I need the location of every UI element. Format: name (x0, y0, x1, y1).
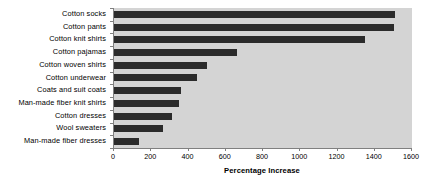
bar-row (114, 97, 412, 110)
bar (114, 125, 163, 132)
x-axis-title: Percentage Increase (113, 166, 411, 175)
x-axis-tick-label: 1600 (403, 152, 419, 161)
chart-screenshot: Cotton socksCotton pantsCotton knit shir… (0, 0, 448, 192)
x-axis-tick (337, 148, 338, 151)
y-axis-category-label: Cotton woven shirts (0, 59, 110, 72)
bar-row (114, 84, 412, 97)
x-axis-tick-labels: 02004006008001000120014001600 (113, 152, 411, 163)
y-axis-category-label: Man-made fiber knit shirts (0, 97, 110, 110)
x-axis-tick-label: 1400 (366, 152, 382, 161)
bar-row (114, 46, 412, 59)
bar (114, 24, 394, 31)
bar-row (114, 8, 412, 21)
plot-area (113, 8, 412, 148)
bar (114, 74, 197, 81)
x-axis-tick-marks (113, 148, 411, 151)
x-axis-tick (150, 148, 151, 151)
bar (114, 49, 237, 56)
y-axis-category-label: Coats and suit coats (0, 84, 110, 97)
y-axis-category-label: Wool sweaters (0, 122, 110, 135)
x-axis-tick-label: 0 (111, 152, 115, 161)
bar-row (114, 135, 412, 148)
x-axis-tick (374, 148, 375, 151)
y-axis-category-label: Man-made fiber dresses (0, 135, 110, 148)
y-axis-category-label: Cotton dresses (0, 110, 110, 123)
bar (114, 36, 365, 43)
y-axis-category-label: Cotton knit shirts (0, 33, 110, 46)
y-axis-category-label: Cotton pants (0, 21, 110, 34)
x-axis-tick (411, 148, 412, 151)
bar (114, 113, 172, 120)
x-axis-tick-label: 600 (219, 152, 231, 161)
bar-row (114, 72, 412, 85)
bar (114, 87, 181, 94)
bar-row (114, 122, 412, 135)
x-axis-tick (299, 148, 300, 151)
x-axis-tick-label: 200 (144, 152, 156, 161)
bar-row (114, 21, 412, 34)
y-axis-category-label: Cotton underwear (0, 72, 110, 85)
x-axis-tick (113, 148, 114, 151)
bar-series (114, 8, 412, 148)
x-axis-tick (225, 148, 226, 151)
y-axis-category-label: Cotton socks (0, 8, 110, 21)
bar-row (114, 33, 412, 46)
bar-row (114, 59, 412, 72)
x-axis-tick-label: 1200 (329, 152, 345, 161)
y-axis-category-labels: Cotton socksCotton pantsCotton knit shir… (0, 8, 110, 148)
x-axis-tick-label: 800 (256, 152, 268, 161)
x-axis-tick (188, 148, 189, 151)
x-axis-tick (262, 148, 263, 151)
bar (114, 138, 139, 145)
x-axis-tick-label: 400 (182, 152, 194, 161)
bar (114, 62, 207, 69)
x-axis-tick-label: 1000 (291, 152, 307, 161)
bar-row (114, 110, 412, 123)
bar (114, 100, 179, 107)
bar (114, 11, 395, 18)
y-axis-category-label: Cotton pajamas (0, 46, 110, 59)
